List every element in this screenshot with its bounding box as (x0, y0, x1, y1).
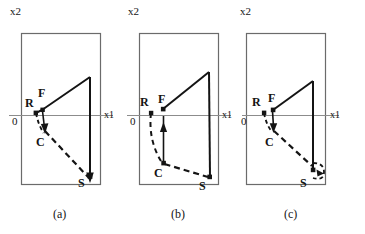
panel-b-node-label-c: C (154, 167, 163, 179)
panel-b-arrowhead-up (160, 122, 167, 132)
panel-b-solid-descent (209, 72, 210, 177)
panel-a-dashed-c-to-s (45, 131, 89, 178)
panel-c-node-label-f: F (268, 92, 275, 104)
panel-b-caption: (b) (171, 208, 185, 220)
panel-c-axis-label-x2: x2 (240, 6, 251, 17)
panel-b-origin-label: 0 (130, 116, 136, 127)
panel-b-node-label-f: F (158, 93, 165, 105)
panel-b-axis-label-x2: x2 (128, 6, 139, 17)
panel-c-arrowhead-loop (317, 170, 325, 177)
panel-b-dashed-r-to-c (150, 113, 161, 162)
panel-b: x2 x1 0 R F C S (b) (121, 0, 243, 234)
panel-b-node-f-marker (161, 107, 166, 112)
figure-three-panel-trajectory-diagram: x2 x1 0 R F C S (a) x2 (0, 0, 365, 234)
panel-a-caption: (a) (53, 208, 66, 220)
panel-a-node-s-marker (88, 174, 93, 179)
panel-b-axis-label-x1: x1 (222, 110, 232, 120)
panel-a: x2 x1 0 R F C S (a) (0, 0, 122, 234)
panel-c-solid-rise (273, 81, 313, 110)
panel-c-node-label-s: S (300, 177, 307, 189)
panel-a-node-label-f: F (38, 87, 45, 99)
panel-c-caption: (c) (284, 208, 297, 220)
panel-c-node-f-marker (271, 108, 276, 113)
panel-a-node-r-marker (34, 111, 38, 115)
panel-b-frame (140, 34, 219, 185)
panel-a-origin-label: 0 (12, 116, 18, 127)
panel-c-axis-label-x1: x1 (330, 110, 340, 120)
panel-c-node-r-marker (262, 111, 266, 115)
panel-a-node-f-marker (40, 108, 44, 112)
panel-a-node-label-c: C (36, 136, 45, 148)
panel-c-node-s-marker (311, 168, 316, 173)
panel-c-node-label-c: C (265, 136, 274, 148)
panel-a-node-label-s: S (78, 177, 85, 189)
panel-b-node-s-marker (207, 175, 212, 180)
panel-b-node-r-marker (149, 111, 153, 115)
panel-b-node-label-s: S (199, 180, 206, 192)
panel-c-graphic (242, 0, 364, 234)
panel-a-axis-label-x2: x2 (10, 6, 21, 17)
panel-c-dashed-c-to-s (274, 131, 312, 166)
panel-c: x2 x1 0 R F C S (c) (242, 0, 364, 234)
panel-c-origin-label: 0 (241, 116, 247, 127)
panel-c-node-label-r: R (252, 96, 261, 108)
panel-a-node-label-r: R (25, 97, 34, 109)
panel-a-axis-label-x1: x1 (104, 110, 114, 120)
panel-b-node-label-r: R (140, 96, 149, 108)
panel-b-solid-rise (163, 72, 209, 109)
panel-b-dashed-c-to-s (165, 164, 209, 177)
panel-b-node-c-marker (161, 161, 166, 166)
